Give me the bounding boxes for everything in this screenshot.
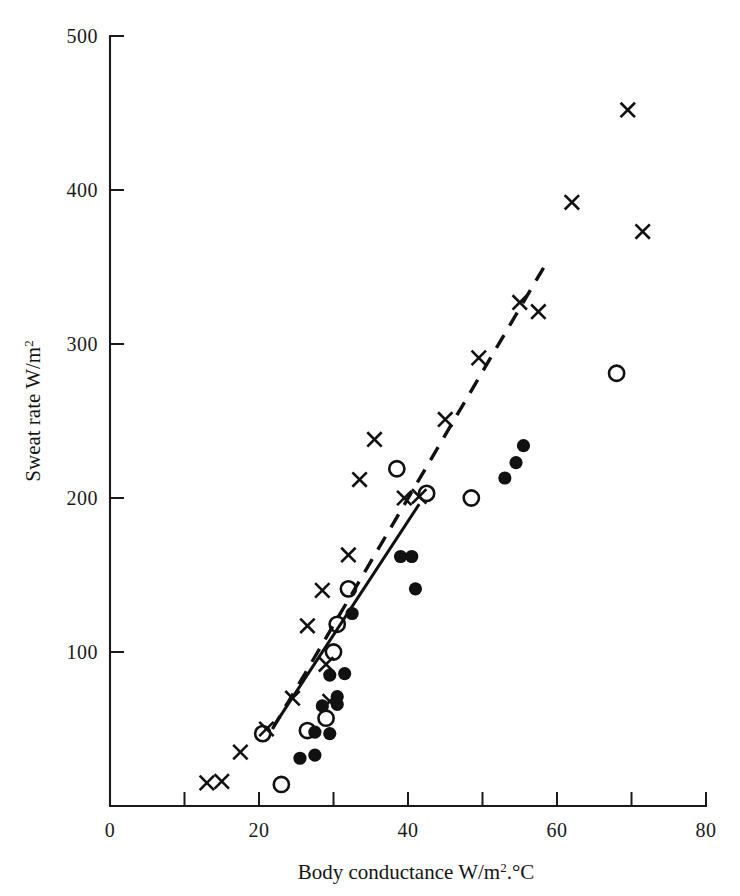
- data-point-filled-circle: [517, 439, 530, 452]
- data-point-cross: [315, 583, 329, 597]
- data-point-open-circle: [274, 777, 289, 792]
- data-point-filled-circle: [316, 699, 329, 712]
- y-axis-title: Sweat rate W/m2: [21, 340, 45, 481]
- axis-spine: [110, 36, 706, 806]
- axis-labels-group: Body conductance W/m2.°CSweat rate W/m2: [21, 340, 534, 884]
- data-point-cross: [438, 412, 452, 426]
- axes-group: 100200300400500020406080: [67, 25, 717, 841]
- data-point-cross: [531, 304, 545, 318]
- data-point-filled-circle: [409, 582, 422, 595]
- scatter-figure: 100200300400500020406080 Body conductanc…: [0, 0, 740, 896]
- y-axis-tick-label: 300: [67, 333, 99, 355]
- x-axis-tick-label: 40: [398, 819, 419, 841]
- y-axis-tick-label: 400: [67, 179, 99, 201]
- fit-lines-group: [272, 264, 545, 729]
- data-point-filled-circle: [331, 690, 344, 703]
- data-point-filled-circle: [405, 550, 418, 563]
- data-point-cross: [200, 776, 214, 790]
- data-point-cross: [233, 745, 247, 759]
- y-axis-tick-label: 500: [67, 25, 99, 47]
- data-point-cross: [285, 691, 299, 705]
- data-point-cross: [621, 103, 635, 117]
- data-point-cross: [300, 619, 314, 633]
- data-point-filled-circle: [338, 667, 351, 680]
- y-axis-tick-label: 200: [67, 487, 99, 509]
- data-point-cross: [341, 548, 355, 562]
- plot-canvas: 100200300400500020406080 Body conductanc…: [0, 0, 740, 896]
- data-point-cross: [565, 195, 579, 209]
- data-point-filled-circle: [509, 456, 522, 469]
- x-axis-tick-label: 80: [696, 819, 717, 841]
- data-point-filled-circle: [308, 725, 321, 738]
- data-point-filled-circle: [323, 727, 336, 740]
- data-point-filled-circle: [323, 669, 336, 682]
- x-axis-tick-label: 0: [105, 819, 116, 841]
- data-point-open-circle: [389, 461, 404, 476]
- data-point-cross: [472, 351, 486, 365]
- x-axis-tick-label: 60: [547, 819, 568, 841]
- y-axis-tick-label: 100: [67, 641, 99, 663]
- data-markers-group: [200, 103, 650, 792]
- data-point-open-circle: [609, 366, 624, 381]
- data-point-cross: [367, 432, 381, 446]
- data-point-filled-circle: [346, 607, 359, 620]
- data-point-cross: [635, 224, 649, 238]
- data-point-filled-circle: [498, 471, 511, 484]
- data-point-open-circle: [326, 644, 341, 659]
- data-point-cross: [215, 774, 229, 788]
- data-point-open-circle: [318, 711, 333, 726]
- x-axis-tick-label: 20: [249, 819, 270, 841]
- data-point-open-circle: [464, 490, 479, 505]
- data-point-filled-circle: [293, 752, 306, 765]
- x-axis-title: Body conductance W/m2.°C: [298, 860, 535, 884]
- data-point-cross: [352, 472, 366, 486]
- dashed-regression-line: [272, 264, 545, 729]
- data-point-filled-circle: [308, 749, 321, 762]
